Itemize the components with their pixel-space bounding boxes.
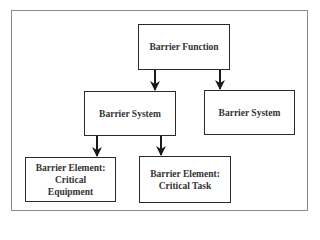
node-barrier-system-right: Barrier System [204,90,295,135]
node-label: Barrier System [99,108,161,120]
node-label-line1: Barrier Element: [36,162,106,174]
node-label: Barrier Function [149,41,218,53]
node-barrier-function: Barrier Function [138,24,230,70]
node-barrier-element-task: Barrier Element: Critical Task [139,156,231,203]
node-label-line2: Critical Task [159,180,212,192]
node-label-line2: Critical [55,174,86,186]
node-label-line1: Barrier Element: [150,168,220,180]
node-barrier-element-equipment: Barrier Element: Critical Equipment [25,157,116,202]
node-label: Barrier System [219,107,281,119]
node-barrier-system-left: Barrier System [84,91,176,136]
node-label-line3: Equipment [48,186,93,198]
